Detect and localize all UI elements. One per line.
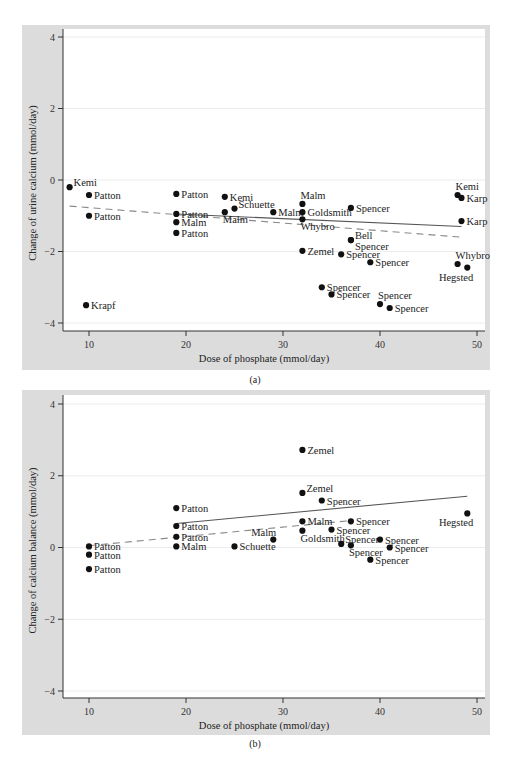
x-tick-label: 40 xyxy=(375,339,385,350)
y-tick-label: −4 xyxy=(44,318,55,329)
data-point-label: Patton xyxy=(94,564,122,575)
data-point-label: Kemi xyxy=(74,177,97,188)
y-tick-label: −2 xyxy=(44,246,55,257)
data-point xyxy=(455,261,461,267)
x-tick-label: 10 xyxy=(84,339,94,350)
x-tick-label: 50 xyxy=(472,339,482,350)
data-point xyxy=(367,259,373,265)
data-point xyxy=(328,291,334,297)
data-point xyxy=(86,213,92,219)
data-point xyxy=(173,534,179,540)
x-tick-label: 20 xyxy=(181,339,191,350)
data-point xyxy=(83,302,89,308)
x-tick-label: 20 xyxy=(181,706,191,717)
data-point xyxy=(387,544,393,550)
chart-panel-a: −4−20241020304050Dose of phosphate (mmol… xyxy=(22,25,490,386)
data-point xyxy=(458,195,464,201)
data-point xyxy=(299,248,305,254)
data-point-label: Malm xyxy=(300,190,325,201)
x-tick-label: 50 xyxy=(472,706,482,717)
data-point-label: Karp xyxy=(466,216,487,227)
data-point-label: Malm xyxy=(223,214,248,225)
data-point xyxy=(231,206,237,212)
data-point xyxy=(231,543,237,549)
data-point-label: Spencer xyxy=(327,496,361,507)
x-tick-label: 40 xyxy=(375,706,385,717)
data-point xyxy=(338,251,344,257)
data-point xyxy=(458,218,464,224)
data-point xyxy=(387,305,393,311)
data-point-label: Schuette xyxy=(239,199,275,210)
data-point-label: Patton xyxy=(181,228,209,239)
x-tick-label: 30 xyxy=(278,706,288,717)
data-point xyxy=(319,284,325,290)
data-point-label: Malm xyxy=(307,516,332,527)
data-point xyxy=(173,211,179,217)
data-point-label: Krapf xyxy=(91,300,116,311)
data-point-label: Malm xyxy=(181,541,206,552)
x-axis-title: Dose of phosphate (mmol/day) xyxy=(199,353,330,365)
data-point-label: Whybro xyxy=(300,221,334,232)
data-point xyxy=(86,543,92,549)
data-point xyxy=(270,209,276,215)
y-tick-label: 0 xyxy=(50,542,55,553)
data-point xyxy=(348,237,354,243)
data-point xyxy=(328,526,334,532)
data-point xyxy=(86,552,92,558)
y-axis-title: Change of urine calcium (mmol/day) xyxy=(27,105,39,261)
y-tick-label: −4 xyxy=(44,686,55,697)
data-point xyxy=(173,543,179,549)
data-point-label: Patton xyxy=(94,211,122,222)
data-point xyxy=(299,518,305,524)
data-point xyxy=(299,201,305,207)
y-tick-label: 2 xyxy=(50,103,55,114)
x-tick-label: 10 xyxy=(84,706,94,717)
data-point xyxy=(338,541,344,547)
data-point-label: Patton xyxy=(181,521,209,532)
data-point-label: Spencer xyxy=(375,555,409,566)
chart-panel-b: −4−20241020304050Dose of phosphate (mmol… xyxy=(22,390,490,750)
data-point-label: Bell xyxy=(355,230,373,241)
data-point xyxy=(86,192,92,198)
data-point-label: Zemel xyxy=(307,445,334,456)
data-point xyxy=(377,537,383,543)
data-point-label: Spencer xyxy=(378,290,412,301)
x-tick-label: 30 xyxy=(278,339,288,350)
panel-caption: (a) xyxy=(249,374,260,386)
data-point-label: Whybro xyxy=(456,250,490,261)
data-point-label: Spencer xyxy=(395,543,429,554)
x-axis-title: Dose of phosphate (mmol/day) xyxy=(199,720,330,732)
data-point xyxy=(348,205,354,211)
data-point-label: Hegsted xyxy=(439,272,474,283)
data-point xyxy=(299,209,305,215)
data-point xyxy=(464,264,470,270)
panel-caption: (b) xyxy=(249,738,261,750)
y-tick-label: 0 xyxy=(50,175,55,186)
data-point-label: Patton xyxy=(181,189,209,200)
data-point-label: Spencer xyxy=(356,203,390,214)
y-axis-title: Change of calcium balance (mmol/day) xyxy=(27,467,39,634)
data-point-label: Patton xyxy=(181,503,209,514)
y-tick-label: 2 xyxy=(50,470,55,481)
data-point xyxy=(173,191,179,197)
data-point xyxy=(377,301,383,307)
data-point xyxy=(67,184,73,190)
data-point xyxy=(299,490,305,496)
data-point xyxy=(222,194,228,200)
data-point xyxy=(319,497,325,503)
y-tick-label: −2 xyxy=(44,614,55,625)
data-point xyxy=(464,510,470,516)
data-point-label: Schuette xyxy=(240,541,276,552)
data-point xyxy=(299,447,305,453)
y-tick-label: 4 xyxy=(50,32,55,43)
data-point-label: Spencer xyxy=(395,303,429,314)
data-point xyxy=(173,505,179,511)
data-point-label: Spencer xyxy=(375,257,409,268)
data-point xyxy=(173,523,179,529)
data-point-label: Kemi xyxy=(456,181,479,192)
data-point xyxy=(173,230,179,236)
data-point-label: Malm xyxy=(251,527,276,538)
data-point-label: Patton xyxy=(94,550,122,561)
data-point-label: Hegsted xyxy=(439,517,474,528)
data-point-label: Zemel xyxy=(306,483,333,494)
